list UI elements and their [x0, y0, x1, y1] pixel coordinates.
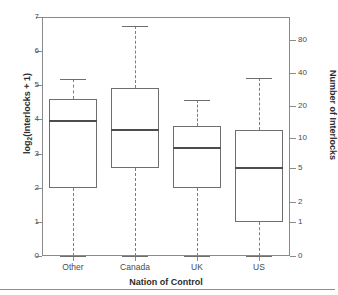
right-tick-mark: [290, 256, 296, 257]
right-tick-mark: [290, 73, 296, 74]
whisker-lower: [73, 188, 74, 256]
left-axis-title-subscript: 2: [26, 137, 33, 141]
right-tick-mark: [290, 168, 296, 169]
right-tick-label: 10: [298, 134, 316, 142]
whisker-cap-lower: [122, 256, 148, 257]
x-axis-category-label: US: [229, 262, 289, 272]
x-axis-title: Nation of Control: [42, 277, 290, 287]
left-tick-label: 3: [25, 150, 39, 158]
whisker-lower: [197, 188, 198, 256]
left-tick-label: 7: [25, 13, 39, 21]
box-iqr: [173, 126, 221, 188]
x-axis-category-label: Canada: [105, 262, 165, 272]
figure-separator-rule: [0, 289, 335, 290]
median-line: [173, 147, 221, 149]
median-line: [235, 167, 283, 169]
left-tick-label: 5: [25, 81, 39, 89]
whisker-upper: [73, 79, 74, 98]
whisker-cap-lower: [60, 256, 86, 257]
right-tick-label: 1: [298, 218, 316, 226]
x-axis-category-label: Other: [43, 262, 103, 272]
median-line: [49, 120, 97, 122]
right-tick-label: 40: [298, 69, 316, 77]
whisker-cap-upper: [60, 79, 86, 80]
left-axis-title: log2(Interlocks + 1): [22, 39, 33, 189]
right-tick-mark: [290, 138, 296, 139]
right-tick-mark: [290, 202, 296, 203]
box-iqr: [235, 130, 283, 222]
whisker-cap-upper: [184, 100, 210, 101]
whisker-lower: [135, 168, 136, 256]
x-axis-category-label: UK: [167, 262, 227, 272]
left-tick-label: 1: [25, 218, 39, 226]
whisker-lower: [259, 222, 260, 256]
left-tick-label: 2: [25, 184, 39, 192]
whisker-upper: [197, 100, 198, 126]
left-tick-label: 6: [25, 47, 39, 55]
whisker-cap-upper: [246, 78, 272, 79]
right-tick-label: 5: [298, 164, 316, 172]
right-tick-label: 20: [298, 102, 316, 110]
right-tick-mark: [290, 40, 296, 41]
whisker-upper: [259, 78, 260, 129]
box-iqr: [49, 99, 97, 188]
whisker-cap-upper: [122, 26, 148, 27]
left-tick-label: 4: [25, 115, 39, 123]
whisker-cap-lower: [184, 256, 210, 257]
whisker-upper: [135, 26, 136, 89]
right-axis-title: Number of Interlocks: [328, 40, 338, 190]
right-tick-mark: [290, 106, 296, 107]
whisker-cap-lower: [246, 256, 272, 257]
median-line: [111, 129, 159, 131]
right-tick-label: 80: [298, 36, 316, 44]
right-tick-label: 2: [298, 198, 316, 206]
right-tick-label: 0: [298, 252, 316, 260]
left-tick-label: 0: [25, 252, 39, 260]
right-tick-mark: [290, 222, 296, 223]
